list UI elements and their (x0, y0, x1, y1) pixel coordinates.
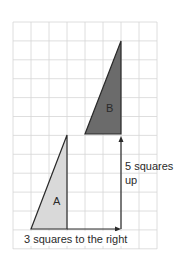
triangle-a-label: A (53, 195, 61, 207)
arrow-up (119, 136, 124, 229)
vertical-translation-label-line1: 5 squares (125, 160, 174, 172)
translation-diagram: A B 3 squares to the right 5 squares up (0, 0, 185, 263)
arrow-right (67, 227, 121, 232)
grid (13, 22, 157, 249)
arrowhead-right-icon (115, 227, 121, 232)
arrowhead-up-icon (119, 136, 124, 142)
triangle-b-label: B (106, 102, 113, 114)
horizontal-translation-label: 3 squares to the right (24, 233, 127, 245)
vertical-translation-label-line2: up (125, 174, 137, 186)
